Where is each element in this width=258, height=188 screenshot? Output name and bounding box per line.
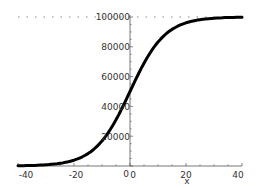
x-tick-label: -20 (69, 170, 84, 180)
x-tick-label: -40 (19, 170, 34, 180)
origin-label: 0 (123, 169, 129, 179)
logistic-chart: -40 -20 0 0 20 x 40 20000 40000 60000 80… (0, 0, 258, 188)
y-tick-label: 40000 (101, 102, 130, 112)
x-tick-label: 0 (130, 170, 136, 180)
y-tick-label: 60000 (101, 72, 130, 82)
y-tick-label: 20000 (101, 132, 130, 142)
x-tick-label: 40 (232, 170, 244, 180)
y-tick-label: 80000 (101, 42, 130, 52)
y-tick-label: 100000 (96, 12, 131, 22)
x-axis-label: x (184, 176, 190, 186)
